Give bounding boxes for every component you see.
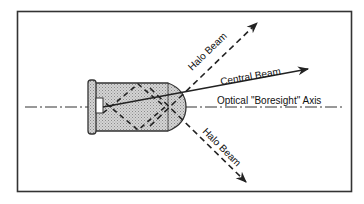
led-package [88, 80, 186, 134]
led-flange [88, 80, 96, 134]
led-body [95, 83, 186, 131]
led-beam-diagram: Halo Beam Central Beam Optical "Boresigh… [0, 0, 364, 204]
label-halo-beam-upper: Halo Beam [186, 30, 229, 72]
label-boresight-axis: Optical "Boresight" Axis [217, 95, 321, 106]
label-halo-beam-lower: Halo Beam [201, 126, 244, 169]
label-central-beam: Central Beam [219, 66, 281, 87]
led-chip [96, 98, 103, 113]
